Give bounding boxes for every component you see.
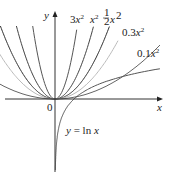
- label-3x2: 3x2: [70, 13, 84, 25]
- x-axis-label: x: [156, 101, 162, 113]
- label-0.1x2: 0.1x2: [137, 47, 160, 59]
- curve-5: [55, 69, 160, 170]
- label-0.3x2: 0.3x2: [122, 26, 145, 38]
- label-half-x2: 1 2 x 2: [103, 6, 122, 27]
- y-axis-label: y: [43, 9, 49, 21]
- chart: y x 0 3x2 x2 1 2 x 2 0.3x2 0.1x2 y = ln …: [0, 0, 173, 177]
- svg-text:x: x: [109, 13, 115, 25]
- origin-label: 0: [47, 101, 53, 113]
- svg-text:2: 2: [116, 9, 122, 21]
- curves: [0, 26, 160, 170]
- label-x2: x2: [89, 13, 99, 25]
- y-axis-arrow-icon: [53, 11, 58, 17]
- label-ln-x: y = ln x: [65, 124, 99, 136]
- svg-text:2: 2: [104, 15, 110, 27]
